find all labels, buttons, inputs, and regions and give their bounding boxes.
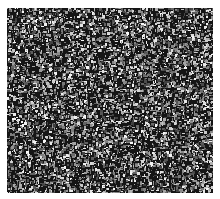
granular-texture-image [7, 8, 213, 193]
image-frame: granular grayscale texture [0, 0, 220, 199]
texture-canvas [7, 8, 213, 193]
